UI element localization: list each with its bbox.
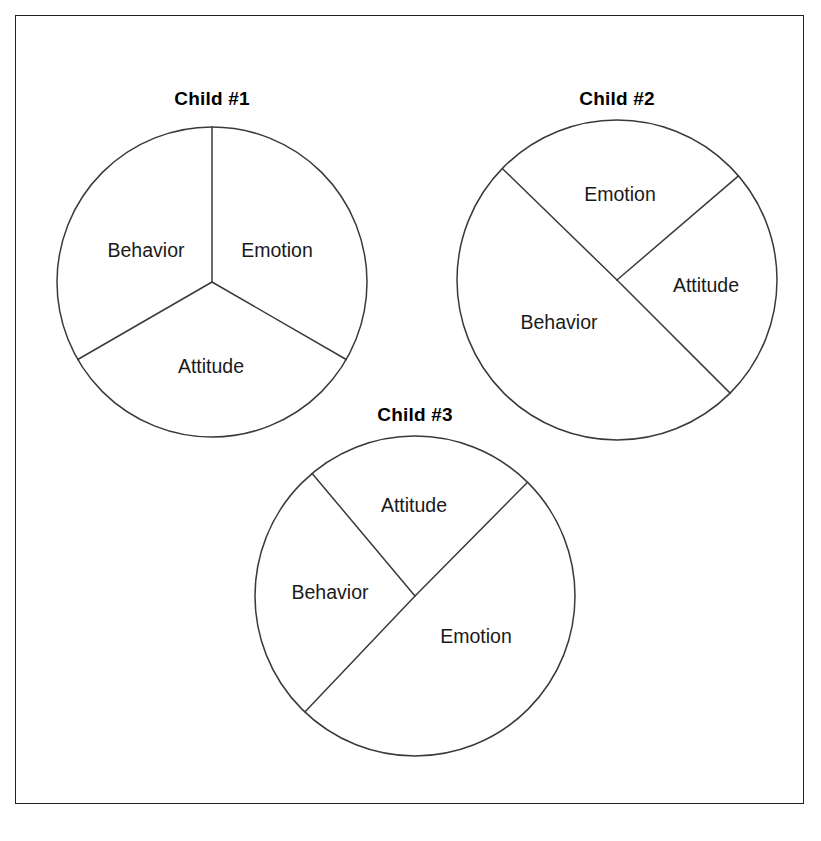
pie-title-child-3: Child #3 (295, 404, 535, 426)
slice-label-attitude-child-1: Attitude (178, 355, 244, 378)
pie-chart-child-1 (49, 119, 375, 445)
slice-label-emotion-child-1: Emotion (241, 239, 313, 262)
slice-label-behavior-child-1: Behavior (108, 239, 185, 262)
figure-root: Child #1BehaviorEmotionAttitudeChild #2E… (0, 0, 821, 841)
slice-label-attitude-child-2: Attitude (673, 274, 739, 297)
slice-label-behavior-child-2: Behavior (521, 311, 598, 334)
pie-title-child-2: Child #2 (497, 88, 737, 110)
slice-label-attitude-child-3: Attitude (381, 494, 447, 517)
pie-title-child-1: Child #1 (92, 88, 332, 110)
slice-label-emotion-child-2: Emotion (584, 183, 656, 206)
slice-label-behavior-child-3: Behavior (292, 581, 369, 604)
slice-label-emotion-child-3: Emotion (440, 625, 512, 648)
